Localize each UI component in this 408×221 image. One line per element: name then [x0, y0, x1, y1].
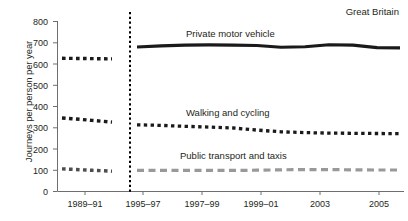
y-tick-label-600: 600: [14, 60, 48, 70]
series-label-private-motor-vehicle: Private motor vehicle: [186, 28, 275, 39]
series-walking-cycling-left: [62, 118, 112, 122]
x-tick-label-1995-97: 1995–97: [125, 199, 160, 209]
series-private-motor-vehicle-right: [137, 45, 400, 48]
series-label-public-transport-and-taxis: Public transport and taxis: [180, 150, 287, 161]
y-tick-label-400: 400: [14, 102, 48, 112]
series-private-motor-vehicle-left: [62, 58, 112, 59]
chart-container: Journeys per person per year 0 100 200 3…: [0, 0, 408, 221]
y-tick-label-300: 300: [14, 123, 48, 133]
x-tick-label-2005: 2005: [369, 199, 389, 209]
region-note: Great Britain: [346, 6, 399, 17]
series-walking-cycling-right: [137, 125, 400, 134]
x-tick-label-1989-91: 1989–91: [67, 199, 102, 209]
x-tick-label-2003: 2003: [310, 199, 330, 209]
y-tick-label-500: 500: [14, 81, 48, 91]
y-tick-marks: [53, 22, 58, 192]
x-tick-label-1997-99: 1997–99: [184, 199, 219, 209]
y-tick-label-700: 700: [14, 38, 48, 48]
x-tick-marks: [85, 192, 379, 196]
x-tick-label-1999-01: 1999–01: [243, 199, 278, 209]
series-public-transport-right: [137, 170, 400, 171]
series-label-walking-and-cycling: Walking and cycling: [186, 107, 270, 118]
series-public-transport-left: [62, 169, 112, 171]
y-tick-label-200: 200: [14, 145, 48, 155]
y-tick-label-800: 800: [14, 17, 48, 27]
y-tick-label-0: 0: [14, 187, 48, 197]
y-tick-label-100: 100: [14, 166, 48, 176]
